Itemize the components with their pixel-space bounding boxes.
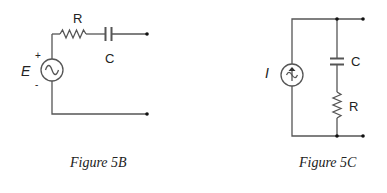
source-label: E xyxy=(21,64,30,78)
terminal-dot xyxy=(145,32,149,36)
figure-caption-5b: Figure 5B xyxy=(70,156,127,170)
terminal-dot xyxy=(361,17,365,21)
arrowhead-icon xyxy=(289,67,296,71)
figure-5b-circuit xyxy=(41,27,149,116)
capacitor-label: C xyxy=(105,52,114,65)
resistor-r-icon xyxy=(60,30,86,38)
resistor-r-icon xyxy=(333,92,341,118)
source-label: I xyxy=(265,66,269,80)
polarity-plus: + xyxy=(35,51,41,61)
figure-5c-circuit xyxy=(281,17,365,138)
polarity-minus: - xyxy=(35,80,38,90)
wire xyxy=(52,81,147,114)
figure-caption-5c: Figure 5C xyxy=(299,156,356,170)
capacitor-label: C xyxy=(351,55,360,68)
resistor-label: R xyxy=(73,12,82,25)
terminal-dot xyxy=(145,112,149,116)
capacitor-c-icon xyxy=(330,59,344,65)
junction-dot xyxy=(335,134,339,138)
terminal-dot xyxy=(361,134,365,138)
sine-icon xyxy=(46,66,59,75)
junction-dot xyxy=(335,17,339,21)
capacitor-c-icon xyxy=(106,27,112,41)
resistor-label: R xyxy=(349,100,358,113)
